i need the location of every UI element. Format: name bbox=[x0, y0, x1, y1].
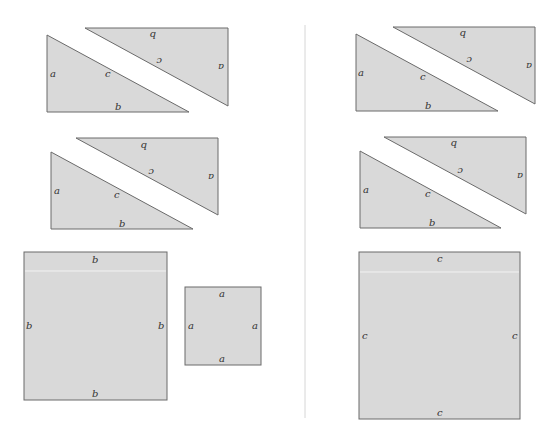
label-b-rotated: b bbox=[150, 30, 156, 41]
label-c-top: c bbox=[437, 253, 443, 264]
label-c-left: c bbox=[362, 330, 368, 341]
label-a-rotated: a bbox=[208, 172, 214, 183]
label-b-rotated: b bbox=[460, 29, 466, 40]
label-c-right: c bbox=[512, 330, 518, 341]
label-b-top: b bbox=[92, 254, 98, 265]
label-b: b bbox=[115, 101, 121, 112]
label-b-left: b bbox=[26, 320, 32, 331]
label-a: a bbox=[50, 68, 56, 79]
label-a-top: a bbox=[219, 288, 225, 299]
label-a: a bbox=[358, 67, 364, 78]
label-c-rotated: c bbox=[466, 55, 472, 66]
label-c: c bbox=[425, 188, 431, 199]
label-a-rotated: a bbox=[218, 62, 224, 73]
label-c-bottom: c bbox=[437, 407, 443, 418]
label-b-right: b bbox=[158, 320, 164, 331]
label-a: a bbox=[54, 185, 60, 196]
label-c-rotated: c bbox=[148, 167, 154, 178]
label-b: b bbox=[429, 217, 435, 228]
square-a: a a a a bbox=[185, 287, 261, 365]
label-c: c bbox=[420, 71, 426, 82]
label-c: c bbox=[114, 189, 120, 200]
label-c: c bbox=[105, 68, 111, 79]
label-b-bottom: b bbox=[92, 388, 98, 399]
label-a-rotated: a bbox=[526, 61, 532, 72]
label-b-rotated: b bbox=[451, 139, 457, 150]
label-b: b bbox=[425, 100, 431, 111]
pythagorean-dissection-diagram: a c b b c a a c b b c a b b b b a a a a bbox=[0, 0, 559, 444]
label-a-rotated: a bbox=[517, 171, 523, 182]
square-c: c c c c bbox=[359, 252, 520, 419]
label-a-left: a bbox=[188, 320, 194, 331]
label-c-rotated: c bbox=[156, 56, 162, 67]
label-a-bottom: a bbox=[219, 353, 225, 364]
label-b: b bbox=[119, 218, 125, 229]
label-a: a bbox=[363, 184, 369, 195]
square-b: b b b b bbox=[24, 252, 167, 400]
label-a-right: a bbox=[252, 320, 258, 331]
label-c-rotated: c bbox=[457, 166, 463, 177]
label-b-rotated: b bbox=[141, 141, 147, 152]
